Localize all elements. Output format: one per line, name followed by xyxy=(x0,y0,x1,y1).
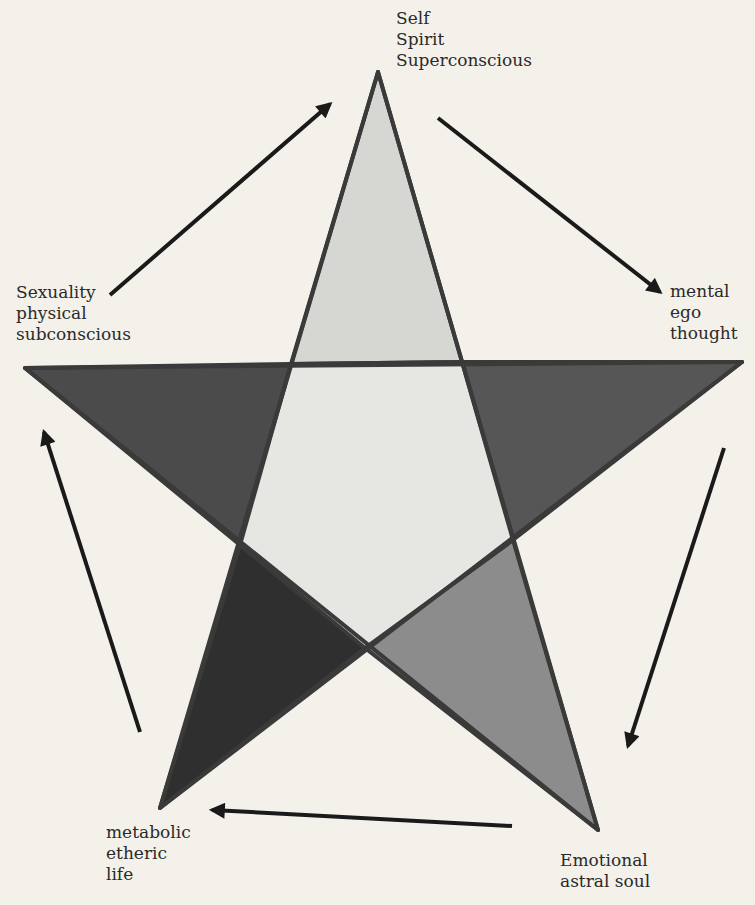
label-right: mental ego thought xyxy=(670,281,738,344)
label-bottom-right-line-2: astral soul xyxy=(560,871,650,892)
pentagram-star xyxy=(25,72,742,830)
arrow-top-to-right xyxy=(438,118,660,292)
arrow-bottom-left-to-left xyxy=(44,432,140,732)
arrow-right-to-bottom-right xyxy=(628,448,724,746)
label-bottom-right-line-1: Emotional xyxy=(560,850,650,871)
label-top-line-1: Self xyxy=(396,8,532,29)
label-bottom-left-line-1: metabolic xyxy=(106,822,191,843)
label-right-line-2: ego xyxy=(670,302,738,323)
label-left: Sexuality physical subconscious xyxy=(16,282,131,345)
label-right-line-3: thought xyxy=(670,323,738,344)
arrow-bottom-right-to-bottom-left xyxy=(212,810,512,826)
pentagram-diagram xyxy=(0,0,755,905)
label-top: Self Spirit Superconscious xyxy=(396,8,532,71)
label-top-line-3: Superconscious xyxy=(396,50,532,71)
label-left-line-2: physical xyxy=(16,303,131,324)
label-bottom-left-line-2: etheric xyxy=(106,843,191,864)
label-bottom-right: Emotional astral soul xyxy=(560,850,650,892)
label-bottom-left-line-3: life xyxy=(106,864,191,885)
label-left-line-1: Sexuality xyxy=(16,282,131,303)
label-left-line-3: subconscious xyxy=(16,324,131,345)
label-bottom-left: metabolic etheric life xyxy=(106,822,191,885)
label-right-line-1: mental xyxy=(670,281,738,302)
label-top-line-2: Spirit xyxy=(396,29,532,50)
arrow-left-to-top xyxy=(110,104,330,295)
